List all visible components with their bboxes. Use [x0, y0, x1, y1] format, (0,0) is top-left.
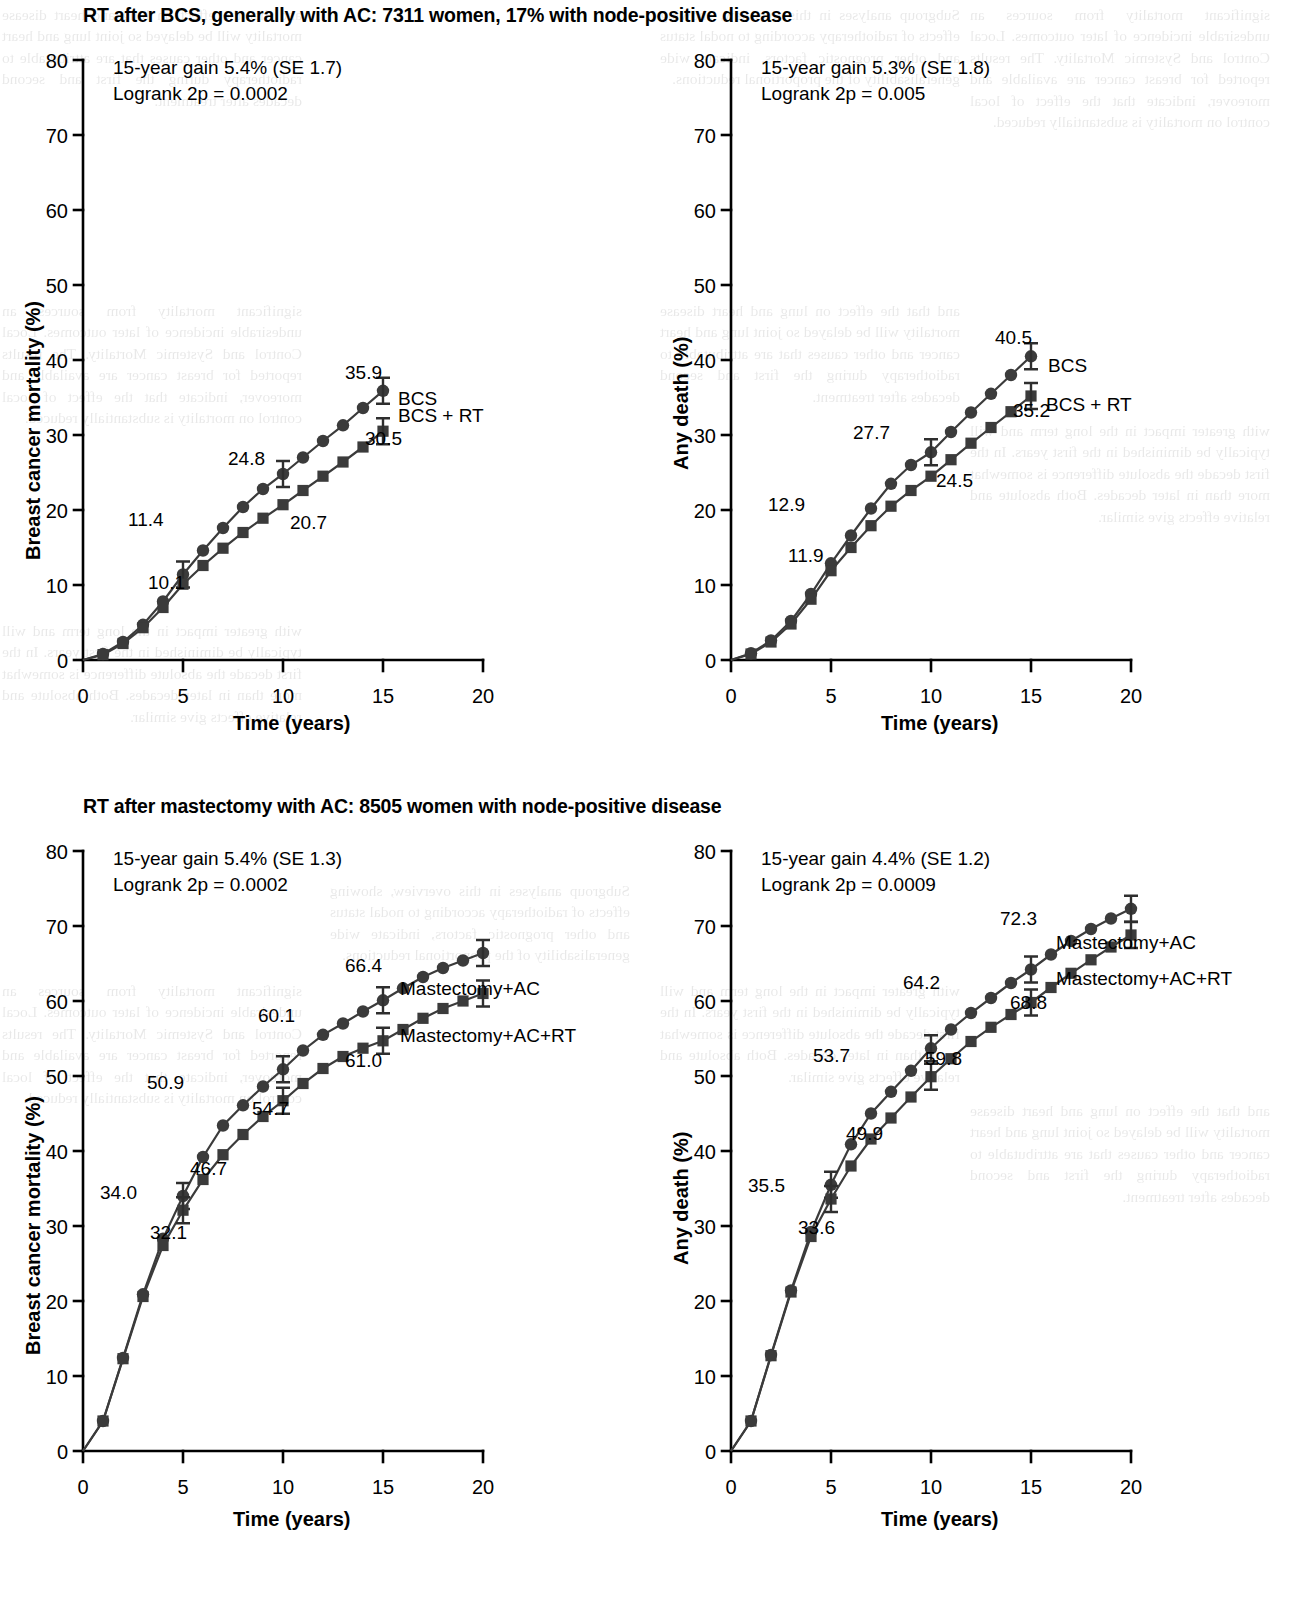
panel-bottom-left: RT after mastectomy with AC: 8505 women …	[0, 780, 648, 1614]
data-point-marker	[945, 426, 957, 438]
data-point-marker	[217, 522, 229, 534]
point-label-macrt-15: 59.8	[925, 1048, 962, 1070]
data-point-marker	[157, 602, 168, 613]
point-label-bcsrt-5: 11.9	[788, 545, 824, 567]
data-point-marker	[905, 1091, 916, 1102]
data-point-marker	[297, 1044, 309, 1056]
data-point-marker	[317, 471, 328, 482]
panel-top-right: 15-year gain 5.3% (SE 1.8) Logrank 2p = …	[648, 0, 1297, 780]
data-point-marker	[985, 422, 996, 433]
point-label-mac-5: 34.0	[100, 1182, 137, 1204]
point-label-bcs-10: 27.7	[853, 422, 890, 444]
point-label-bcs-15: 35.9	[345, 362, 382, 384]
point-label-bcs-10: 24.8	[228, 448, 265, 470]
data-point-marker	[217, 1119, 229, 1131]
series-label-bcs-rt: BCS + RT	[1046, 394, 1132, 416]
panel-top-left: RT after BCS, generally with AC: 7311 wo…	[0, 0, 648, 780]
data-point-marker	[765, 636, 776, 647]
panel-bottom-right: 15-year gain 4.4% (SE 1.2) Logrank 2p = …	[648, 780, 1297, 1614]
data-point-marker	[965, 1007, 977, 1019]
data-point-marker	[885, 478, 897, 490]
data-point-marker	[317, 435, 329, 447]
data-point-marker	[357, 402, 369, 414]
figure-page: and that the effect on lung and heart di…	[0, 0, 1297, 1614]
point-label-bcs-5: 12.9	[768, 494, 805, 516]
point-label-mac-15: 60.1	[258, 1005, 295, 1027]
data-point-marker	[865, 520, 876, 531]
data-point-marker	[1045, 982, 1056, 993]
data-point-marker	[1005, 977, 1017, 989]
data-point-marker	[257, 483, 269, 495]
point-label-macrt-5: 33.6	[798, 1217, 835, 1239]
point-label-mac-20: 72.3	[1000, 908, 1037, 930]
series-label-mastectomy-ac: Mastectomy+AC	[400, 978, 540, 1000]
data-point-marker	[237, 501, 249, 513]
data-point-marker	[785, 618, 796, 629]
point-label-bcsrt-10: 20.7	[290, 512, 327, 534]
point-label-macrt-10: 49.9	[846, 1123, 883, 1145]
data-point-marker	[137, 622, 148, 633]
data-point-marker	[237, 1129, 248, 1140]
data-point-marker	[985, 1022, 996, 1033]
data-point-marker	[1105, 912, 1117, 924]
data-point-marker	[237, 527, 248, 538]
data-point-marker	[297, 485, 308, 496]
data-point-marker	[905, 1065, 917, 1077]
data-point-marker	[97, 649, 108, 660]
data-point-marker	[965, 1036, 976, 1047]
data-point-marker	[217, 543, 228, 554]
data-point-marker	[1085, 954, 1096, 965]
plot-area-top-left	[0, 0, 648, 780]
data-point-marker	[457, 954, 469, 966]
data-point-marker	[117, 638, 128, 649]
point-label-mac-20: 66.4	[345, 955, 382, 977]
data-point-marker	[925, 471, 936, 482]
data-point-marker	[845, 542, 856, 553]
point-label-bcs-15: 40.5	[995, 327, 1032, 349]
data-point-marker	[865, 502, 877, 514]
point-label-macrt-15: 54.7	[252, 1098, 289, 1120]
data-point-marker	[905, 485, 916, 496]
series-label-mastectomy-ac: Mastectomy+AC	[1056, 932, 1196, 954]
plot-area-top-right	[648, 0, 1297, 780]
series-label-mastectomy-ac-rt: Mastectomy+AC+RT	[400, 1025, 576, 1047]
data-point-marker	[745, 648, 756, 659]
data-point-marker	[257, 513, 268, 524]
data-point-marker	[257, 1080, 269, 1092]
point-label-bcsrt-5: 10.1	[148, 572, 185, 594]
series-label-mastectomy-ac-rt: Mastectomy+AC+RT	[1056, 968, 1232, 990]
data-point-marker	[337, 456, 348, 467]
point-label-mac-15: 64.2	[903, 972, 940, 994]
curve-Mastectomy+AC+RT	[731, 935, 1131, 1451]
data-point-marker	[277, 499, 288, 510]
data-point-marker	[97, 1415, 108, 1426]
data-point-marker	[197, 560, 208, 571]
data-point-marker	[317, 1063, 328, 1074]
data-point-marker	[865, 1107, 877, 1119]
point-label-mac-10: 53.7	[813, 1045, 850, 1067]
data-point-marker	[965, 438, 976, 449]
data-point-marker	[1005, 369, 1017, 381]
data-point-marker	[297, 1078, 308, 1089]
data-point-marker	[437, 962, 449, 974]
data-point-marker	[885, 1086, 897, 1098]
data-point-marker	[985, 388, 997, 400]
data-point-marker	[945, 454, 956, 465]
data-point-marker	[785, 1286, 796, 1297]
data-point-marker	[765, 1350, 776, 1361]
point-label-mac-5: 35.5	[748, 1175, 785, 1197]
data-point-marker	[317, 1029, 329, 1041]
point-label-macrt-20: 61.0	[345, 1050, 382, 1072]
data-point-marker	[337, 1017, 349, 1029]
data-point-marker	[885, 501, 896, 512]
data-point-marker	[417, 1013, 428, 1024]
data-point-marker	[745, 1415, 756, 1426]
point-label-bcsrt-15: 35.2	[1013, 400, 1050, 422]
data-point-marker	[197, 544, 209, 556]
point-label-bcsrt-15: 30.5	[365, 428, 402, 450]
point-label-macrt-5: 32.1	[150, 1222, 187, 1244]
plot-area-bottom-right	[648, 780, 1297, 1614]
series-label-bcs: BCS	[1048, 355, 1087, 377]
data-point-marker	[437, 1003, 448, 1014]
point-label-bcsrt-10: 24.5	[936, 470, 973, 492]
